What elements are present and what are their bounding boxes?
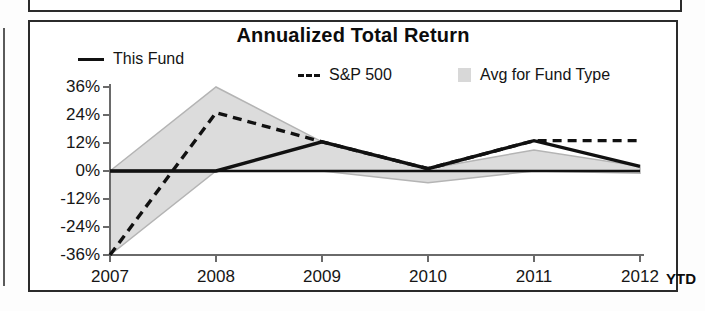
y-tick-label: -36% <box>42 245 100 265</box>
x-tick-label: 2009 <box>282 267 362 287</box>
x-tick-label: 2007 <box>70 267 150 287</box>
chart-screenshot: Annualized Total Return This Fund S&P 50… <box>0 0 705 311</box>
plot-area <box>30 22 676 290</box>
x-axis-ytd-note: YTD <box>666 270 696 287</box>
y-tick-label: 0% <box>42 161 100 181</box>
y-tick-label: 36% <box>42 77 100 97</box>
y-tick-label: -12% <box>42 189 100 209</box>
y-tick-label: 24% <box>42 105 100 125</box>
y-tick-label: -24% <box>42 217 100 237</box>
panel-above-fragment <box>28 0 682 12</box>
annualized-total-return-panel: Annualized Total Return This Fund S&P 50… <box>28 20 678 292</box>
y-tick-label: 12% <box>42 133 100 153</box>
x-tick-label: 2011 <box>494 267 574 287</box>
plot-svg <box>30 22 676 290</box>
x-tick-label: 2008 <box>176 267 256 287</box>
left-margin-rule <box>3 28 5 286</box>
x-tick-label: 2010 <box>388 267 468 287</box>
